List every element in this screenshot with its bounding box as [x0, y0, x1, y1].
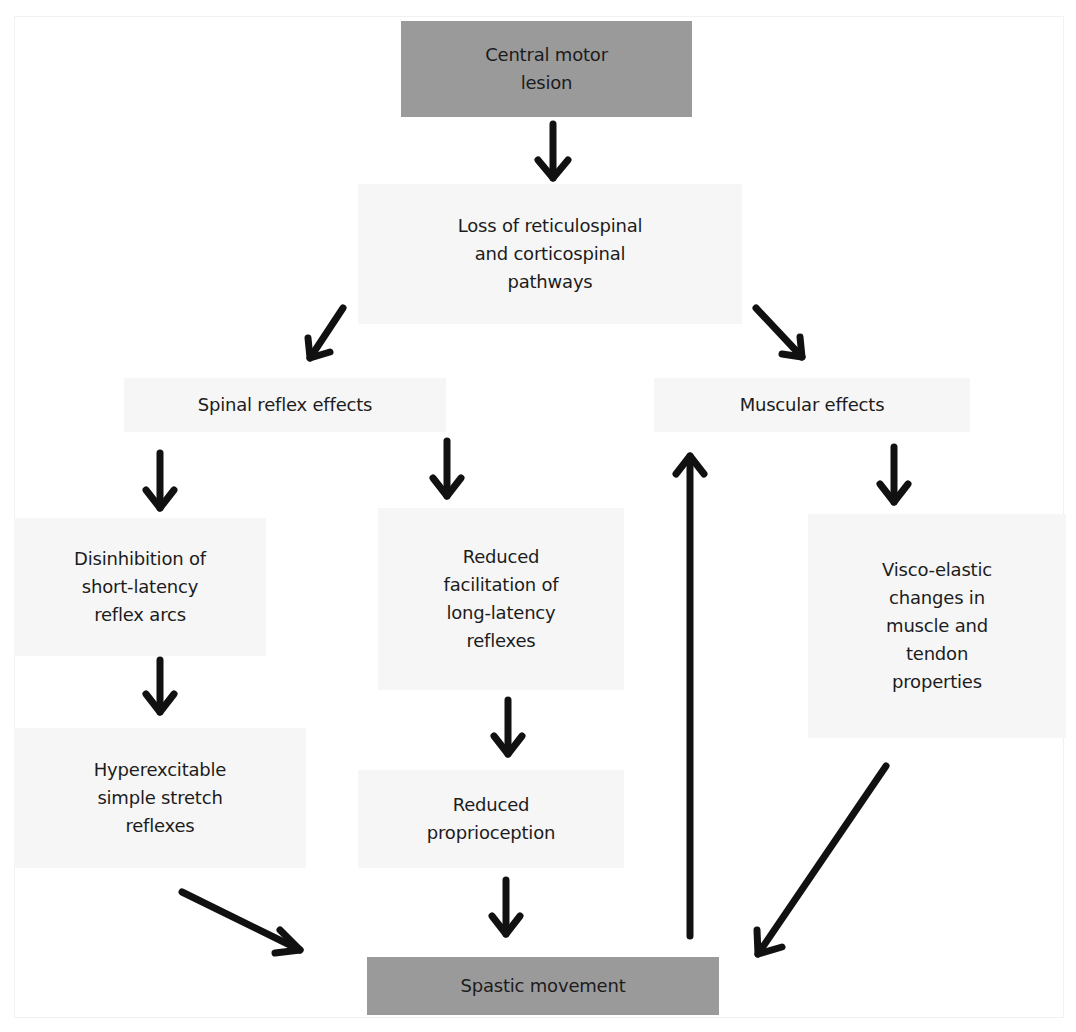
node-muscular-effects: Muscular effects: [654, 378, 970, 432]
node-reduced-proprioception: Reduced proprioception: [358, 770, 624, 868]
node-hyperexcitable: Hyperexcitable simple stretch reflexes: [14, 728, 306, 868]
node-disinhibition: Disinhibition of short-latency reflex ar…: [14, 518, 266, 656]
node-spinal-reflex-effects: Spinal reflex effects: [124, 378, 446, 432]
node-visco-elastic: Visco-elastic changes in muscle and tend…: [808, 514, 1066, 738]
node-spastic-movement: Spastic movement: [367, 957, 719, 1015]
node-loss-of-pathways: Loss of reticulospinal and corticospinal…: [358, 184, 742, 324]
node-reduced-facilitation: Reduced facilitation of long-latency ref…: [378, 508, 624, 690]
node-central-motor-lesion: Central motor lesion: [401, 21, 692, 117]
